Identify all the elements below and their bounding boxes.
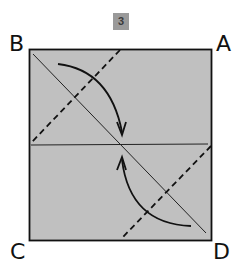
fold-diagram — [0, 0, 244, 251]
